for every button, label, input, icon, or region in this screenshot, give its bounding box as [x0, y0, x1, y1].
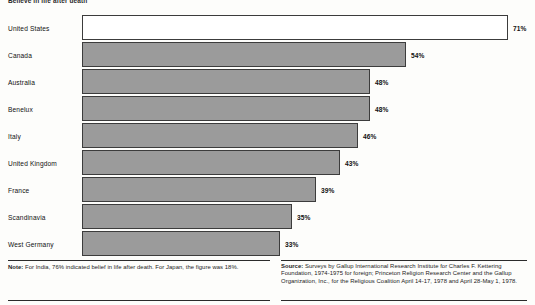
footnotes-section: Note: For India, 76% indicated belief in…	[0, 260, 535, 305]
note-label: Note:	[8, 264, 23, 270]
bar-track: 43%	[82, 149, 535, 176]
bar-category-label: France	[8, 186, 29, 193]
bar-value-label: 35%	[297, 213, 311, 220]
bar-row: Canada54%	[0, 41, 535, 68]
bar-value-label: 43%	[345, 159, 359, 166]
bar-track: 71%	[82, 14, 535, 41]
bar-category-label: Scandinavia	[8, 213, 46, 220]
bar-category-label: Benelux	[8, 105, 33, 112]
bar-track: 35%	[82, 203, 535, 230]
bar-value-label: 39%	[321, 186, 335, 193]
bar-value-label: 33%	[285, 240, 299, 247]
source-rule-bottom	[281, 300, 527, 301]
bar-chart-plot-area: United States71%Canada54%Australia48%Ben…	[0, 14, 535, 257]
bar-row: United States71%	[0, 14, 535, 41]
bar	[82, 150, 340, 175]
bar-track: 48%	[82, 95, 535, 122]
bar-row: France39%	[0, 176, 535, 203]
bar-row: United Kingdom43%	[0, 149, 535, 176]
bar-row: West Germany33%	[0, 230, 535, 257]
bar-track: 54%	[82, 41, 535, 68]
source-rule-top	[281, 260, 527, 261]
bar	[82, 123, 358, 148]
note-text: For India, 76% indicated belief in life …	[23, 264, 238, 270]
bar-value-label: 71%	[513, 24, 527, 31]
bar-row: Italy46%	[0, 122, 535, 149]
chart-title: Believe in life after death	[8, 0, 87, 4]
bar-row: Benelux48%	[0, 95, 535, 122]
bar	[82, 69, 370, 94]
bar	[82, 204, 292, 229]
source-text: Surveys by Gallup International Research…	[281, 263, 517, 284]
bar-category-label: United States	[8, 24, 50, 31]
note-block: Note: For India, 76% indicated belief in…	[8, 264, 272, 271]
bar-value-label: 54%	[411, 51, 425, 58]
bar-track: 48%	[82, 68, 535, 95]
bar-category-label: Canada	[8, 51, 32, 58]
bar	[82, 231, 280, 256]
bar-category-label: United Kingdom	[8, 159, 57, 166]
source-label: Source:	[281, 263, 303, 269]
bar	[82, 96, 370, 121]
note-rule-top	[8, 260, 270, 261]
chart-page: Believe in life after death United State…	[0, 0, 535, 305]
bar-category-label: West Germany	[8, 240, 54, 247]
bar-value-label: 48%	[375, 78, 389, 85]
bar-value-label: 48%	[375, 105, 389, 112]
bar-category-label: Italy	[8, 132, 21, 139]
bar-track: 39%	[82, 176, 535, 203]
note-rule-bottom	[8, 300, 270, 301]
bar-track: 46%	[82, 122, 535, 149]
bar	[82, 42, 406, 67]
bar-row: Australia48%	[0, 68, 535, 95]
bar-row: Scandinavia35%	[0, 203, 535, 230]
bar	[82, 15, 508, 40]
bar-category-label: Australia	[8, 78, 35, 85]
bar-value-label: 46%	[363, 132, 377, 139]
source-block: Source: Surveys by Gallup International …	[281, 263, 529, 285]
bar-track: 33%	[82, 230, 535, 257]
bar	[82, 177, 316, 202]
